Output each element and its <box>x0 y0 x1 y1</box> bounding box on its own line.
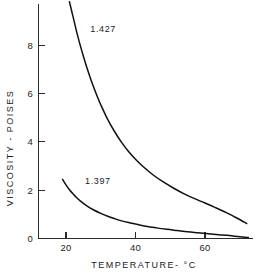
x-axis-title: TEMPERATURE- °C <box>91 260 196 270</box>
y-tick-label-6: 6 <box>27 88 33 99</box>
curve-series-1 <box>63 179 249 237</box>
viscosity-temperature-chart: 0 2 4 6 8 20 40 60 TEMPERATURE- °C VISCO… <box>0 0 256 273</box>
y-tick-label-2: 2 <box>27 185 33 196</box>
y-tick-label-8: 8 <box>27 40 33 51</box>
x-tick-label-40: 40 <box>130 242 141 253</box>
curve-label-1427: 1.427 <box>90 24 116 34</box>
y-axis-title: VISCOSITY - POISES <box>5 90 15 206</box>
y-tick-label-0: 0 <box>27 233 33 244</box>
y-axis-ticks <box>39 45 46 238</box>
x-tick-label-60: 60 <box>199 242 210 253</box>
x-axis-ticks <box>66 232 205 239</box>
chart-svg: 0 2 4 6 8 20 40 60 TEMPERATURE- °C VISCO… <box>0 0 256 273</box>
x-tick-label-20: 20 <box>60 242 71 253</box>
y-tick-label-4: 4 <box>27 136 33 147</box>
curve-series-0 <box>69 2 246 224</box>
curve-label-1397: 1.397 <box>85 176 111 186</box>
x-axis-tick-labels: 20 40 60 <box>60 242 210 253</box>
y-axis-tick-labels: 0 2 4 6 8 <box>27 40 33 244</box>
